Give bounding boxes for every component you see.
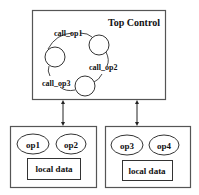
top-control-title: Top Control [108, 17, 160, 28]
op-label-op4: op4 [157, 141, 172, 151]
local-data-label: local data [35, 164, 73, 174]
top-control-box: Top Control call_op1 call_op2 call_op3 [33, 11, 166, 100]
left-module-box: op1 op2 local data [11, 127, 97, 188]
right-module-box: op3 op4 local data [106, 127, 191, 188]
transition-label-call-op1: call_op1 [54, 29, 82, 38]
state-circle [75, 76, 95, 96]
state-circle [45, 47, 65, 67]
transition-label-call-op3: call_op3 [42, 79, 70, 88]
state-circle [89, 35, 109, 55]
op-label-op3: op3 [120, 141, 135, 151]
transition-label-call-op2: call_op2 [89, 63, 117, 72]
op-label-op1: op1 [26, 140, 41, 150]
op-label-op2: op2 [64, 140, 79, 150]
local-data-label: local data [128, 166, 166, 176]
diagram-canvas: Top Control call_op1 call_op2 call_op3 o… [0, 0, 199, 195]
